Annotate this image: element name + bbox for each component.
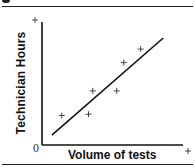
data-point-marker-icon	[90, 88, 96, 94]
y-axis-label: Technician Hours	[14, 28, 28, 138]
x-axis-end-marker-icon	[185, 148, 191, 154]
trend-line	[52, 38, 163, 135]
data-point-marker-icon	[86, 111, 92, 117]
y-axis-end-marker-icon	[32, 17, 38, 23]
data-point-marker-icon	[138, 46, 144, 52]
scatter-plot	[0, 0, 195, 168]
origin-label: 0	[33, 141, 39, 156]
data-point-marker-icon	[114, 88, 120, 94]
data-point-marker-icon	[59, 112, 65, 118]
x-axis-label: Volume of tests	[68, 148, 156, 162]
data-point-marker-icon	[121, 60, 127, 66]
